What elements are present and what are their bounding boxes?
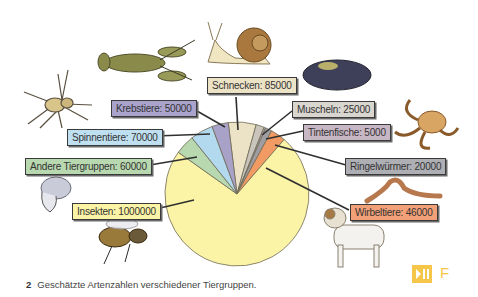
label-wirbeltiere: Wirbeltiere: 46000 — [350, 204, 438, 221]
label-krebstiere: Krebstiere: 50000 — [111, 100, 197, 117]
spider-icon — [24, 70, 92, 128]
worm-icon — [367, 180, 440, 201]
caption-text: Geschätzte Artenzahlen verschiedener Tie… — [37, 279, 256, 290]
label-andere-tiergruppen: Andere Tiergruppen: 60000 — [25, 158, 152, 175]
label-insekten: Insekten: 1000000 — [72, 203, 161, 220]
label-muscheln: Muscheln: 25000 — [292, 101, 375, 118]
figure-caption: 2Geschätzte Artenzahlen verschiedener Ti… — [26, 279, 256, 290]
mussel-icon — [303, 60, 371, 90]
octopus-icon — [395, 100, 458, 148]
crayfish-icon — [98, 40, 195, 81]
play-pause-icon[interactable] — [412, 265, 432, 283]
caption-number: 2 — [26, 279, 31, 290]
label-schnecken: Schnecken: 85000 — [207, 77, 297, 94]
media-letter: F — [440, 264, 449, 281]
pie-slices — [165, 122, 309, 266]
bee-icon — [99, 219, 147, 264]
jellyfish-icon — [41, 177, 71, 212]
label-spinnentiere: Spinnentiere: 70000 — [67, 129, 163, 146]
pie-chart — [0, 0, 478, 297]
chart-figure: Schnecken: 85000 Muscheln: 25000 Tintenf… — [0, 0, 478, 297]
snail-icon — [208, 22, 271, 64]
label-ringelwuermer: Ringelwürmer: 20000 — [345, 158, 446, 175]
label-tintenfische: Tintenfische: 5000 — [303, 124, 391, 141]
